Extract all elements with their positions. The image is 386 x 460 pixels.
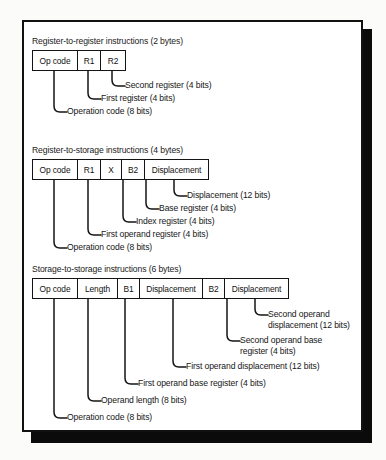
field-row-register-to-register: Op code R1 R2: [32, 50, 126, 71]
diagram-title-register-to-storage: Register-to-storage instructions (4 byte…: [32, 145, 183, 155]
diagram-title-register-to-register: Register-to-register instructions (2 byt…: [32, 36, 183, 46]
field-box-b1: B1: [118, 279, 140, 298]
callout-operation-code: Operation code (8 bits): [67, 242, 152, 253]
field-box-displacement: Displacement: [145, 160, 208, 179]
field-box-b2: B2: [203, 279, 225, 298]
figure-page: Register-to-register instructions (2 byt…: [0, 0, 386, 460]
field-box-r1: R1: [78, 160, 101, 179]
field-box-b2: B2: [122, 160, 145, 179]
diagram-title-storage-to-storage: Storage-to-storage instructions (6 bytes…: [32, 264, 181, 274]
field-box-displacement-first: Displacement: [140, 279, 203, 298]
callout-first-operand-register: First operand register (4 bits): [101, 229, 208, 240]
callout-operand-length: Operand length (8 bits): [101, 395, 187, 406]
field-box-r2: R2: [101, 51, 125, 70]
field-box-op-code: Op code: [33, 160, 78, 179]
field-box-r1: R1: [78, 51, 101, 70]
callout-second-register: Second register (4 bits): [125, 80, 211, 91]
callout-first-operand-base-register: First operand base register (4 bits): [138, 378, 266, 389]
field-box-op-code: Op code: [33, 279, 78, 298]
callout-base-register: Base register (4 bits): [159, 203, 236, 214]
field-box-length: Length: [78, 279, 118, 298]
callout-displacement-12-bits: Displacement (12 bits): [187, 190, 270, 201]
callout-index-register: Index register (4 bits): [136, 216, 214, 227]
field-row-register-to-storage: Op code R1 X B2 Displacement: [32, 159, 209, 180]
callout-first-register: First register (4 bits): [101, 93, 175, 104]
callout-operation-code: Operation code (8 bits): [67, 106, 152, 117]
callout-operation-code: Operation code (8 bits): [67, 412, 152, 423]
field-box-op-code: Op code: [33, 51, 78, 70]
field-box-displacement-second: Displacement: [225, 279, 288, 298]
callout-second-operand-displacement: Second operand displacement (12 bits): [268, 309, 358, 331]
field-row-storage-to-storage: Op code Length B1 Displacement B2 Displa…: [32, 278, 289, 299]
page-frame: Register-to-register instructions (2 byt…: [22, 20, 363, 432]
field-box-x: X: [101, 160, 122, 179]
callout-second-operand-base-register: Second operand base register (4 bits): [240, 335, 334, 357]
callout-first-operand-displacement: First operand displacement (12 bits): [186, 361, 320, 372]
